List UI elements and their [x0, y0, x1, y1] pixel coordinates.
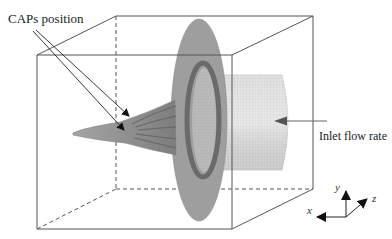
inlet-flow-annotation: Inlet flow rate [274, 117, 387, 144]
y-axis-label: y [334, 181, 340, 193]
flow-domain-diagram: CAPs position Inlet flow rate y x z [0, 0, 392, 239]
disc-inner-mesh [192, 68, 216, 172]
caps-arrow-upper [36, 30, 129, 116]
cone [73, 100, 176, 155]
z-axis-arrow [346, 199, 367, 217]
caps-position-label: CAPs position [8, 11, 84, 26]
inlet-flow-label: Inlet flow rate [319, 129, 387, 143]
box-top-right-depth-edge [232, 16, 313, 55]
caps-position-annotation: CAPs position [8, 11, 129, 130]
x-axis-label: x [306, 204, 312, 216]
caps-arrow-lower [33, 31, 124, 130]
box-bottom-right-depth-edge [232, 189, 313, 229]
coordinate-axes: y x z [306, 181, 377, 217]
z-axis-label: z [371, 192, 377, 204]
disc [171, 19, 227, 221]
box-bottom-left-depth-edge [37, 189, 116, 229]
cone-body [73, 100, 176, 155]
